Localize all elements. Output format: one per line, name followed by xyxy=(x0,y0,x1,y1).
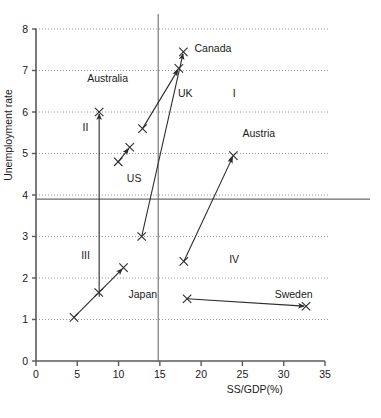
series-label-austria: Austria xyxy=(242,127,275,139)
series-label-australia: Australia xyxy=(87,72,128,84)
x-axis-tick-label: 25 xyxy=(237,368,249,380)
data-point-marker xyxy=(179,48,187,56)
x-axis-tick-label: 35 xyxy=(319,368,331,380)
x-axis-tick-label: 5 xyxy=(74,368,80,380)
data-point-marker xyxy=(126,143,134,151)
data-point-marker xyxy=(114,158,122,166)
x-axis-tick-label: 15 xyxy=(154,368,166,380)
axis-titles: SS/GDP(%)Unemployment rate xyxy=(2,89,283,395)
series-label-japan: Japan xyxy=(128,288,157,300)
data-point-marker xyxy=(229,151,237,159)
series-label-uk: UK xyxy=(178,87,193,99)
x-axis-title: SS/GDP(%) xyxy=(227,383,283,395)
series-segment xyxy=(142,54,183,237)
series-australia xyxy=(95,108,103,297)
y-axis-tick-label: 8 xyxy=(22,23,28,35)
y-axis-tick-label: 3 xyxy=(22,230,28,242)
series-austria xyxy=(180,151,238,265)
series-label-us: US xyxy=(127,172,142,184)
scatter-chart: 01234567805101520253035 AustraliaJapanUS… xyxy=(0,0,381,418)
series-segment xyxy=(184,157,233,261)
quadrant-label-ii: II xyxy=(83,121,89,133)
y-axis-tick-label: 5 xyxy=(22,147,28,159)
quadrant-label-iv: IV xyxy=(229,253,239,265)
y-axis-tick-label: 2 xyxy=(22,272,28,284)
data-point-marker xyxy=(138,124,146,132)
chart-canvas: 01234567805101520253035 AustraliaJapanUS… xyxy=(0,0,381,418)
y-axis-tick-label: 0 xyxy=(22,355,28,367)
data-point-marker xyxy=(70,313,78,321)
x-axis-tick-label: 30 xyxy=(278,368,290,380)
y-axis-tick-label: 7 xyxy=(22,64,28,76)
data-point-marker xyxy=(119,263,127,271)
quadrant-labels: IIIIIIIV xyxy=(81,87,239,265)
x-axis-tick-label: 10 xyxy=(113,368,125,380)
series-uk xyxy=(138,64,183,133)
y-axis-title: Unemployment rate xyxy=(2,89,14,181)
y-axis-tick-label: 4 xyxy=(22,189,28,201)
series-labels: AustraliaJapanUSUKCanadaAustriaSweden xyxy=(87,42,313,300)
y-axis-tick-label: 6 xyxy=(22,106,28,118)
x-axis-tick-label: 0 xyxy=(33,368,39,380)
quadrant-label-iii: III xyxy=(81,249,90,261)
axis-ticks: 01234567805101520253035 xyxy=(22,23,331,380)
y-axis-tick-label: 1 xyxy=(22,313,28,325)
reference-lines xyxy=(36,14,370,361)
quadrant-label-i: I xyxy=(233,87,236,99)
series-label-canada: Canada xyxy=(195,42,232,54)
series-canada xyxy=(137,48,187,241)
x-axis-tick-label: 20 xyxy=(195,368,207,380)
series-us xyxy=(114,143,134,166)
series-label-sweden: Sweden xyxy=(275,288,313,300)
data-point-marker xyxy=(180,257,188,265)
